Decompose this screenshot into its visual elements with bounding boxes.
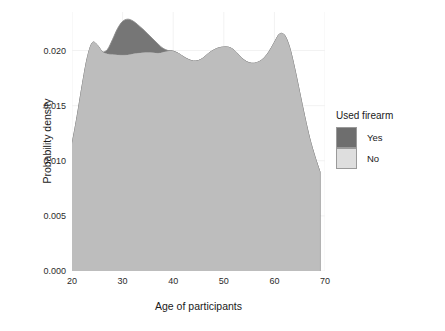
x-tick-label: 20 xyxy=(52,276,92,286)
legend-label: No xyxy=(367,153,379,164)
legend-swatch-no xyxy=(336,148,357,169)
legend-entry[interactable]: Yes xyxy=(336,127,441,148)
x-tick-label: 60 xyxy=(254,276,294,286)
x-axis-title: Age of participants xyxy=(72,300,325,312)
plot-panel xyxy=(72,12,325,271)
y-tick-label: 0.005 xyxy=(22,211,66,221)
y-tick-label: 0.015 xyxy=(22,101,66,111)
density-areas xyxy=(72,19,320,271)
x-tick-label: 40 xyxy=(153,276,193,286)
legend-label: Yes xyxy=(367,132,383,143)
x-tick-label: 30 xyxy=(103,276,143,286)
legend-swatch-yes xyxy=(336,127,357,148)
density-area-overlap xyxy=(72,33,320,271)
x-tick-label: 70 xyxy=(305,276,345,286)
legend: Used firearm YesNo xyxy=(336,110,441,169)
y-tick-label: 0.020 xyxy=(22,46,66,56)
x-tick-label: 50 xyxy=(204,276,244,286)
legend-entries: YesNo xyxy=(336,127,441,169)
y-tick-label: 0.000 xyxy=(22,266,66,276)
y-tick-label: 0.010 xyxy=(22,156,66,166)
legend-entry[interactable]: No xyxy=(336,148,441,169)
plot-area-svg xyxy=(72,12,325,271)
x-axis-tick-labels: 203040506070 xyxy=(0,276,445,292)
density-plot-figure: Probability density 0.0000.0050.0100.015… xyxy=(0,0,445,331)
legend-title: Used firearm xyxy=(336,110,441,121)
